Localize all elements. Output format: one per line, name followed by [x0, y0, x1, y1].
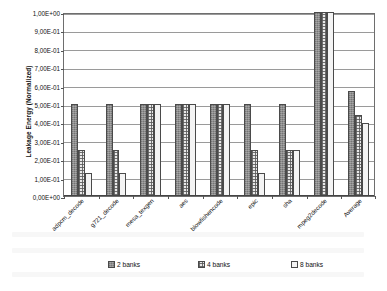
legend-swatch-icon	[291, 261, 298, 268]
plot-area	[63, 13, 375, 197]
bar	[244, 104, 251, 196]
leakage-energy-bar-chart: Leakage Energy (Normalized) 0,00E+001,00…	[0, 0, 387, 291]
y-axis-tick-label: 1,00E+00	[33, 10, 60, 17]
bar	[251, 150, 258, 196]
y-axis-tickmark	[61, 143, 64, 144]
bar	[119, 173, 126, 196]
bar	[78, 150, 85, 196]
legend-label: 8 banks	[300, 260, 323, 269]
legend-label: 2 banks	[117, 260, 140, 269]
y-axis-tickmark	[61, 106, 64, 107]
y-axis-tickmark	[61, 51, 64, 52]
y-axis-tick-label: 9,00E-01	[34, 28, 60, 35]
bar	[293, 150, 300, 196]
y-axis-tick-label: 3,00E-01	[34, 138, 60, 145]
y-axis-tickmark	[61, 180, 64, 181]
y-axis-tick-label: 5,00E-01	[34, 102, 60, 109]
legend-item[interactable]: 2 banks	[108, 260, 140, 269]
bar	[279, 104, 286, 196]
bar	[258, 173, 265, 196]
y-axis-tick-label: 2,00E-01	[34, 157, 60, 164]
x-axis-line	[64, 195, 374, 196]
y-axis-tickmark	[61, 124, 64, 125]
bar	[154, 104, 161, 196]
bar	[210, 104, 217, 196]
bar-group	[175, 14, 196, 196]
bar-group	[279, 14, 300, 196]
y-axis-tick-label: 0,00E+00	[33, 194, 60, 201]
bar	[106, 104, 113, 196]
bar	[223, 104, 230, 196]
bar	[71, 104, 78, 196]
y-axis-tick-label: 6,00E-01	[34, 83, 60, 90]
bar	[147, 104, 154, 196]
legend-label: 4 banks	[207, 260, 230, 269]
y-axis-tick-label: 8,00E-01	[34, 46, 60, 53]
y-axis-tickmark	[61, 88, 64, 89]
bar	[140, 104, 147, 196]
bar	[217, 104, 224, 196]
legend-swatch-icon	[198, 261, 205, 268]
x-axis-tickmark	[375, 196, 376, 199]
y-axis-tick-label: 7,00E-01	[34, 65, 60, 72]
bar	[85, 173, 92, 196]
bar-group	[244, 14, 265, 196]
bars-layer	[64, 14, 374, 196]
y-axis-tick-labels: 0,00E+001,00E-012,00E-013,00E-014,00E-01…	[22, 13, 62, 197]
bar-group	[140, 14, 161, 196]
bar	[182, 104, 189, 196]
bar	[314, 12, 321, 196]
bar	[175, 104, 182, 196]
y-axis-tickmark	[61, 14, 64, 15]
bar	[321, 12, 328, 196]
bar-group	[71, 14, 92, 196]
bar-group	[348, 14, 369, 196]
y-axis-tickmark	[61, 32, 64, 33]
bar	[189, 104, 196, 196]
legend-item[interactable]: 8 banks	[291, 260, 323, 269]
bar-group	[106, 14, 127, 196]
bar	[286, 150, 293, 196]
bar	[113, 150, 120, 196]
y-axis-tick-label: 4,00E-01	[34, 120, 60, 127]
y-axis-tickmark	[61, 161, 64, 162]
bar-group	[314, 14, 335, 196]
bar	[327, 12, 334, 196]
legend-swatch-icon	[108, 261, 115, 268]
bar	[348, 91, 355, 196]
x-axis-category-labels: adpcm_decodeg721_decodemesa_texgenaesblo…	[63, 197, 375, 255]
bar	[355, 115, 362, 196]
y-axis-tick-label: 1,00E-01	[34, 175, 60, 182]
chart-legend: 2 banks4 banks8 banks	[63, 260, 375, 276]
y-axis-tickmark	[61, 69, 64, 70]
bar	[362, 123, 369, 196]
legend-item[interactable]: 4 banks	[198, 260, 230, 269]
bar-group	[210, 14, 231, 196]
